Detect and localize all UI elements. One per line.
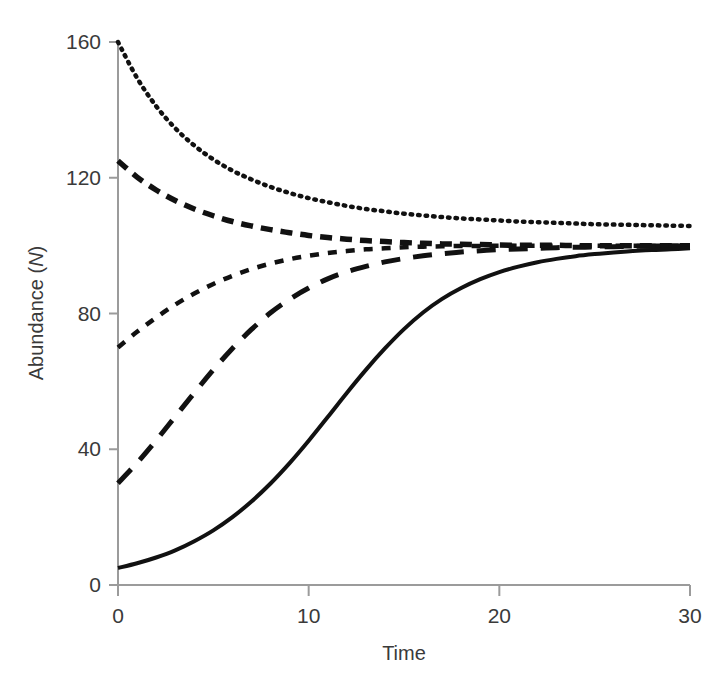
y-axis-title-symbol: N bbox=[25, 252, 47, 267]
x-axis-tick-label: 30 bbox=[678, 604, 701, 627]
data-curves bbox=[118, 42, 690, 568]
curve-series-1 bbox=[118, 161, 690, 246]
x-axis-tick-label: 0 bbox=[112, 604, 124, 627]
curve-series-3 bbox=[118, 246, 690, 483]
y-axis-tick-label: 80 bbox=[78, 302, 101, 325]
y-axis-tick-label: 120 bbox=[66, 166, 101, 189]
x-axis-tick-label: 20 bbox=[488, 604, 511, 627]
y-axis-tick-label: 160 bbox=[66, 30, 101, 53]
curve-series-0 bbox=[118, 42, 690, 226]
svg-text:Abundance (N): Abundance (N) bbox=[25, 246, 47, 381]
x-axis-tick-label: 10 bbox=[297, 604, 320, 627]
chart-plot-area: 04080120160 0102030 Time Abundance (N) bbox=[0, 0, 726, 687]
curve-series-4 bbox=[118, 248, 690, 568]
y-axis-title: Abundance (N) bbox=[25, 246, 47, 381]
y-axis-tick-label: 40 bbox=[78, 437, 101, 460]
curve-series-2 bbox=[118, 246, 690, 348]
y-axis-ticks: 04080120160 bbox=[66, 30, 118, 596]
x-axis-ticks: 0102030 bbox=[112, 585, 702, 627]
y-axis-tick-label: 0 bbox=[89, 573, 101, 596]
logistic-growth-chart: 04080120160 0102030 Time Abundance (N) bbox=[0, 0, 726, 687]
x-axis-title: Time bbox=[382, 642, 426, 664]
y-axis-title-close: ) bbox=[25, 246, 47, 253]
y-axis-title-plain: Abundance ( bbox=[25, 267, 47, 381]
